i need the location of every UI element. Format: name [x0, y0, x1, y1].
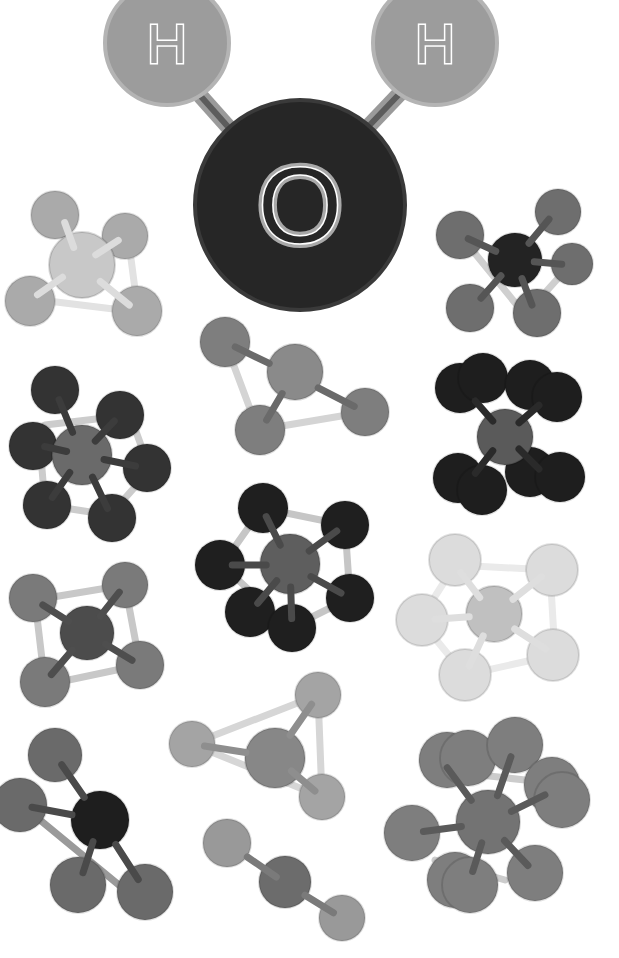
atom — [535, 452, 585, 502]
atom — [321, 501, 369, 549]
atom — [439, 649, 491, 701]
bond — [534, 262, 562, 265]
atom — [457, 465, 507, 515]
atom — [532, 372, 582, 422]
atom-h2: H — [373, 0, 497, 105]
atom — [526, 544, 578, 596]
atom — [50, 857, 106, 913]
atom — [235, 405, 285, 455]
atom — [513, 289, 561, 337]
atom — [326, 574, 374, 622]
atom — [31, 191, 79, 239]
atom — [0, 778, 47, 832]
bond — [291, 587, 292, 619]
atom — [527, 629, 579, 681]
atom — [28, 728, 82, 782]
atom — [436, 211, 484, 259]
bond — [423, 827, 461, 832]
atom — [31, 366, 79, 414]
atom — [429, 534, 481, 586]
atom — [116, 641, 164, 689]
central-atom — [259, 856, 311, 908]
atom — [341, 388, 389, 436]
atom-label-h1: H — [147, 12, 187, 75]
central-atom — [267, 344, 323, 400]
bond — [435, 617, 469, 620]
atom — [458, 353, 508, 403]
atom — [238, 483, 288, 533]
atom — [319, 895, 365, 941]
atom — [295, 672, 341, 718]
molecule-illustration: HHOO — [0, 0, 619, 958]
atom — [23, 481, 71, 529]
central-atom — [71, 791, 129, 849]
atom-label-h2: H — [415, 12, 455, 75]
atom-label-outline: O — [257, 143, 343, 266]
atom — [117, 864, 173, 920]
atom-h1: H — [105, 0, 229, 105]
atom — [442, 857, 498, 913]
bond — [45, 447, 67, 452]
atom — [88, 494, 136, 542]
atom-o: OO — [195, 100, 405, 310]
atom — [9, 574, 57, 622]
atom — [200, 317, 250, 367]
atom — [203, 819, 251, 867]
